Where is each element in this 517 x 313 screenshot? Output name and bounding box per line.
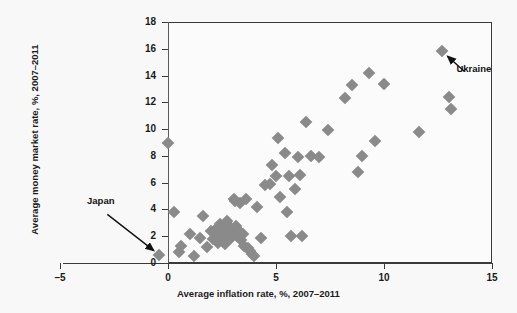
y-axis-tick-label: 2	[132, 231, 156, 241]
y-axis-tick-label: 8	[132, 151, 156, 161]
x-axis-tick-label: 0	[155, 273, 181, 283]
y-axis-tick-mark	[162, 209, 168, 210]
y-axis-tick-mark	[162, 49, 168, 50]
y-axis-tick-label: 18	[132, 17, 156, 27]
x-axis-tick-label: 10	[371, 273, 397, 283]
y-axis-tick-mark	[162, 22, 168, 23]
y-axis-tick-label: 10	[132, 124, 156, 134]
y-axis-tick-mark	[162, 129, 168, 130]
x-axis-tick-mark	[60, 263, 61, 269]
y-axis-tick-label: 12	[132, 97, 156, 107]
scatter-plot-figure: 024681012141618–5051015 JapanUkraine Ave…	[0, 0, 517, 313]
y-axis-tick-label: 4	[132, 204, 156, 214]
x-axis-tick-mark	[492, 263, 493, 269]
x-axis-tick-label: 5	[263, 273, 289, 283]
y-axis-tick-mark	[162, 156, 168, 157]
annotation-label-ukraine: Ukraine	[456, 63, 491, 74]
x-axis-tick-mark	[168, 263, 169, 269]
y-axis-tick-mark	[162, 236, 168, 237]
y-axis-title: Average money market rate, %, 2007–2011	[29, 10, 40, 270]
x-axis-tick-mark	[276, 263, 277, 269]
y-axis-tick-label: 6	[132, 178, 156, 188]
y-axis-tick-label: 16	[132, 44, 156, 54]
annotation-label-japan: Japan	[87, 195, 114, 206]
x-axis-line	[63, 263, 492, 264]
y-axis-tick-mark	[162, 183, 168, 184]
x-axis-tick-label: –5	[47, 273, 73, 283]
x-axis-title: Average inflation rate, %, 2007–2011	[0, 288, 517, 299]
y-axis-tick-mark	[162, 76, 168, 77]
y-axis-tick-label: 14	[132, 71, 156, 81]
x-axis-tick-mark	[384, 263, 385, 269]
x-axis-tick-label: 15	[479, 273, 505, 283]
y-axis-tick-label: 0	[132, 258, 156, 268]
y-axis-tick-mark	[162, 102, 168, 103]
